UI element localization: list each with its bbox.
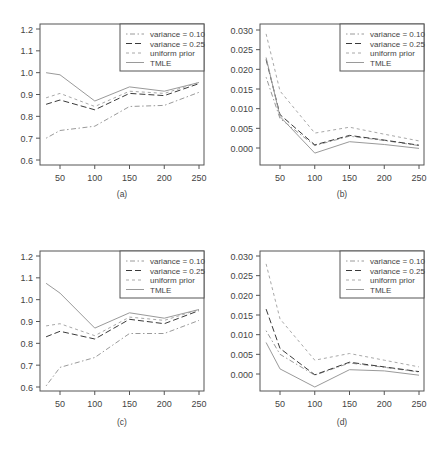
- y-tick-label: 1.1: [20, 46, 33, 56]
- x-tick-label: 100: [87, 399, 102, 409]
- x-tick-label: 50: [275, 173, 285, 183]
- chart-panel-c: 0.60.70.80.91.01.11.250100150200250(c)va…: [20, 251, 206, 427]
- y-tick-label: 0.005: [230, 124, 253, 134]
- x-tick-label: 50: [55, 399, 65, 409]
- panel-label: (b): [337, 189, 348, 199]
- y-tick-label: 1.0: [20, 295, 33, 305]
- y-tick-label: 0.9: [20, 317, 33, 327]
- legend-label: variance = 0.25: [150, 40, 205, 49]
- legend: variance = 0.10variance = 0.25uniform pr…: [340, 251, 425, 298]
- chart-panel-a: 0.60.70.80.91.01.11.250100150200250(a)va…: [20, 24, 206, 199]
- series-line-uniform-prior: [46, 310, 199, 336]
- y-tick-label: 0.020: [230, 65, 253, 75]
- legend-label: TMLE: [370, 286, 391, 295]
- legend-label: variance = 0.10: [370, 30, 425, 39]
- y-tick-label: 0.010: [230, 330, 253, 340]
- x-tick-label: 250: [411, 173, 426, 183]
- legend-label: variance = 0.25: [370, 40, 425, 49]
- series-line-variance-0-10: [266, 331, 419, 376]
- y-tick-label: 0.9: [20, 90, 33, 100]
- x-tick-label: 50: [275, 399, 285, 409]
- x-tick-label: 250: [191, 173, 206, 183]
- y-tick-label: 0.010: [230, 104, 253, 114]
- x-tick-label: 200: [157, 399, 172, 409]
- series-line-uniform-prior: [46, 83, 199, 107]
- legend-label: variance = 0.25: [370, 267, 425, 276]
- x-tick-label: 50: [55, 173, 65, 183]
- x-tick-label: 250: [191, 399, 206, 409]
- y-tick-label: 0.005: [230, 350, 253, 360]
- y-tick-label: 0.015: [230, 311, 253, 321]
- legend-label: uniform prior: [370, 276, 415, 285]
- legend: variance = 0.10variance = 0.25uniform pr…: [340, 24, 425, 71]
- y-tick-label: 1.0: [20, 68, 33, 78]
- legend-label: uniform prior: [370, 49, 415, 58]
- y-tick-label: 0.020: [230, 291, 253, 301]
- series-line-variance-0-10: [266, 77, 419, 145]
- y-tick-label: 0.025: [230, 45, 253, 55]
- legend-label: uniform prior: [150, 276, 195, 285]
- y-tick-label: 0.025: [230, 271, 253, 281]
- y-tick-label: 0.6: [20, 156, 33, 166]
- y-tick-label: 0.030: [230, 26, 253, 36]
- y-tick-label: 0.015: [230, 85, 253, 95]
- y-tick-label: 0.000: [230, 370, 253, 380]
- x-tick-label: 100: [87, 173, 102, 183]
- legend-label: variance = 0.25: [150, 267, 205, 276]
- x-tick-label: 150: [122, 399, 137, 409]
- y-tick-label: 1.1: [20, 273, 33, 283]
- legend-label: variance = 0.10: [150, 30, 205, 39]
- x-tick-label: 200: [377, 399, 392, 409]
- legend-label: variance = 0.10: [370, 257, 425, 266]
- y-tick-label: 0.030: [230, 252, 253, 262]
- y-tick-label: 0.000: [230, 144, 253, 154]
- panel-label: (c): [117, 417, 127, 427]
- x-tick-label: 150: [342, 173, 357, 183]
- legend-label: uniform prior: [150, 49, 195, 58]
- y-tick-label: 1.2: [20, 25, 33, 35]
- x-tick-label: 200: [157, 173, 172, 183]
- x-tick-label: 150: [122, 173, 137, 183]
- x-tick-label: 250: [411, 399, 426, 409]
- x-tick-label: 100: [307, 173, 322, 183]
- legend-label: TMLE: [150, 286, 171, 295]
- y-tick-label: 0.7: [20, 134, 33, 144]
- panel-label: (a): [117, 189, 128, 199]
- x-tick-label: 150: [342, 399, 357, 409]
- chart-panel-b: 0.0000.0050.0100.0150.0200.0250.03050100…: [230, 24, 426, 199]
- x-tick-label: 200: [377, 173, 392, 183]
- legend-label: variance = 0.10: [150, 257, 205, 266]
- series-line-tmle: [266, 343, 419, 388]
- x-tick-label: 100: [307, 399, 322, 409]
- y-tick-label: 0.6: [20, 383, 33, 393]
- legend: variance = 0.10variance = 0.25uniform pr…: [120, 251, 205, 298]
- legend-label: TMLE: [150, 59, 171, 68]
- series-line-variance-0-10: [46, 320, 199, 386]
- y-tick-label: 0.8: [20, 339, 33, 349]
- figure: 0.60.70.80.91.01.11.250100150200250(a)va…: [0, 0, 443, 451]
- y-tick-label: 0.8: [20, 112, 33, 122]
- legend: variance = 0.10variance = 0.25uniform pr…: [120, 24, 205, 71]
- series-line-tmle: [266, 58, 419, 154]
- panel-label: (d): [337, 417, 348, 427]
- chart-panel-d: 0.0000.0050.0100.0150.0200.0250.03050100…: [230, 251, 426, 427]
- y-tick-label: 0.7: [20, 361, 33, 371]
- y-tick-label: 1.2: [20, 252, 33, 262]
- series-line-variance-0-10: [46, 92, 199, 138]
- legend-label: TMLE: [370, 59, 391, 68]
